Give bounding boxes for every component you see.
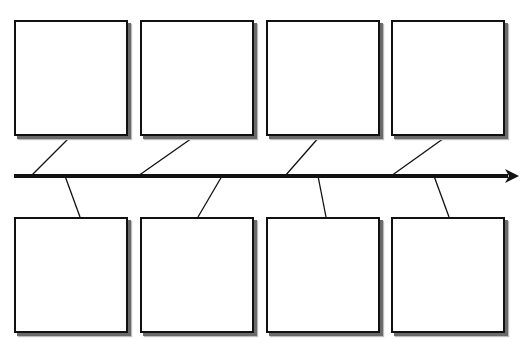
connector-line	[318, 176, 326, 217]
event-box-bottom-2	[140, 217, 254, 333]
connector-line	[391, 136, 447, 176]
connector-line	[138, 136, 195, 176]
event-box-bottom-3	[266, 217, 380, 333]
event-box-bottom-4	[391, 217, 505, 333]
event-box-top-1	[14, 20, 128, 136]
connector-line	[198, 176, 222, 217]
event-box-top-3	[266, 20, 380, 136]
connector-line	[434, 176, 449, 217]
event-box-bottom-1	[14, 217, 128, 333]
connector-line	[285, 136, 320, 176]
connector-line	[31, 136, 71, 176]
timeline-diagram	[0, 0, 526, 350]
connector-line	[65, 176, 80, 217]
event-box-top-2	[140, 20, 254, 136]
event-box-top-4	[391, 20, 505, 136]
